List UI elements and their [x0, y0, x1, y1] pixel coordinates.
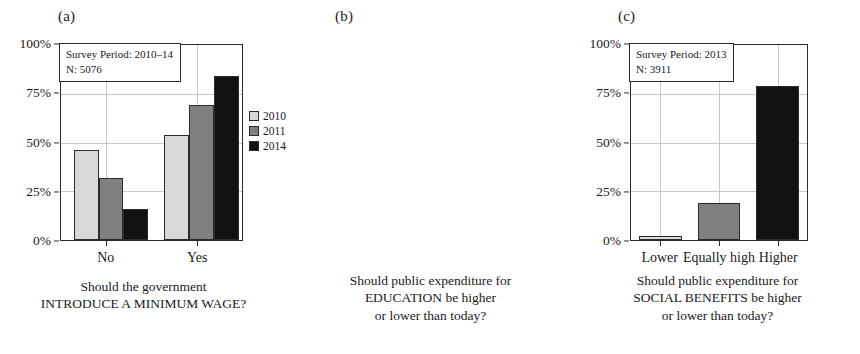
- legend-label-2010: 2010: [263, 110, 286, 122]
- xtick-mark-no: [106, 241, 107, 246]
- legend-label-2011: 2011: [263, 125, 286, 137]
- ytick-mark-75: [54, 93, 59, 94]
- panel-a-legend: 2010 2011 2014: [249, 110, 286, 152]
- panel-a-caption-line2: INTRODUCE A MINIMUM WAGE?: [0, 295, 287, 312]
- panel-b-annotation-line1: Survey Period: 2013: [636, 47, 726, 62]
- panel-a-ytick-50: 50%: [26, 135, 51, 151]
- panel-a-plot-area: 100% 75% 50% 25% 0% No Yes Survey Period…: [60, 44, 243, 241]
- panel-a-ytick-75: 75%: [26, 85, 51, 101]
- legend-label-2014: 2014: [263, 140, 286, 152]
- panel-a-annotation-line2: N: 5076: [66, 62, 173, 77]
- bar-no-2011: [99, 178, 124, 240]
- legend-swatch-2010: [249, 111, 259, 121]
- panel-c-caption: Should public expenditure for SOCIAL BEN…: [574, 272, 860, 324]
- panel-b-annotation-box: Survey Period: 2013 N: 3911: [629, 43, 734, 82]
- panel-b: (b) 100% 75% 50%: [287, 0, 574, 354]
- panel-a-letter: (a): [58, 8, 75, 25]
- panel-a-caption: Should the government INTRODUCE A MINIMU…: [0, 278, 287, 313]
- panel-a-ytick-0: 0%: [33, 233, 51, 249]
- legend-item-2011: 2011: [249, 125, 286, 137]
- panel-c-letter: (c): [618, 8, 635, 25]
- bar-yes-2011: [189, 105, 214, 240]
- panel-a-annotation-line1: Survey Period: 2010–14: [66, 47, 173, 62]
- figure-three-panel-bar-charts: (a): [0, 0, 860, 354]
- legend-item-2014: 2014: [249, 140, 286, 152]
- xtick-mark-yes: [197, 241, 198, 246]
- panel-a-annotation-box: Survey Period: 2010–14 N: 5076: [59, 43, 181, 82]
- panel-b-annotation-line2: N: 3911: [636, 62, 726, 77]
- panel-a-caption-line1: Should the government: [0, 278, 287, 295]
- panel-b-caption-line3: or lower than today?: [287, 307, 574, 324]
- bar-no-2014: [123, 209, 148, 240]
- panel-a-ytick-100: 100%: [20, 36, 52, 52]
- panel-b-caption-line1: Should public expenditure for: [287, 272, 574, 289]
- legend-swatch-2014: [249, 141, 259, 151]
- panel-b-letter: (b): [335, 8, 353, 25]
- bar-yes-2014: [214, 76, 239, 240]
- panel-a: (a): [0, 0, 287, 354]
- panel-b-caption: Should public expenditure for EDUCATION …: [287, 272, 574, 324]
- panel-c-caption-line2: SOCIAL BENEFITS be higher: [574, 289, 860, 306]
- legend-swatch-2011: [249, 126, 259, 136]
- panel-b-caption-line2: EDUCATION be higher: [287, 289, 574, 306]
- bar-yes-2010: [164, 135, 189, 240]
- panel-a-xtick-yes: Yes: [187, 250, 207, 266]
- ytick-mark-0: [54, 240, 59, 241]
- ytick-mark-50: [54, 142, 59, 143]
- panel-c-caption-line3: or lower than today?: [574, 307, 860, 324]
- panel-c-caption-line1: Should public expenditure for: [574, 272, 860, 289]
- legend-item-2010: 2010: [249, 110, 286, 122]
- panel-a-ytick-25: 25%: [26, 184, 51, 200]
- ytick-mark-25: [54, 191, 59, 192]
- panel-a-xtick-no: No: [97, 250, 114, 266]
- bar-no-2010: [74, 150, 99, 240]
